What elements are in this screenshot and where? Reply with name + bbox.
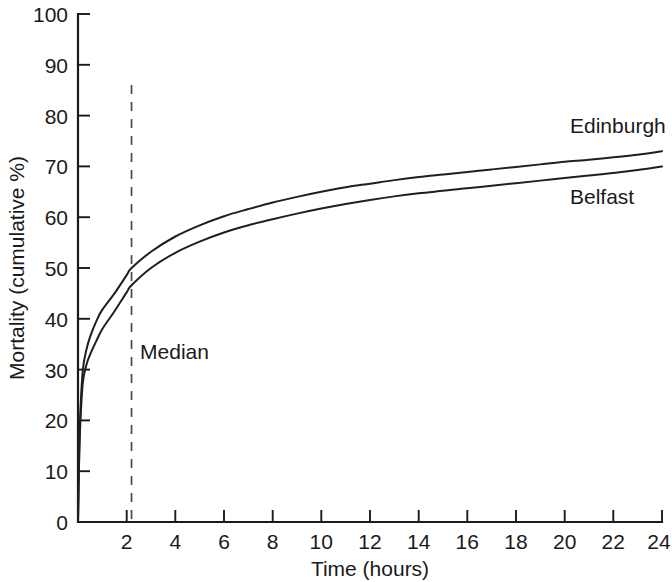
series-label-edinburgh: Edinburgh — [570, 114, 666, 137]
y-tick-label: 0 — [56, 511, 68, 534]
x-axis-tick-labels: 2 4 6 8 10 12 14 16 18 20 22 24 — [121, 530, 671, 553]
x-tick-label: 14 — [407, 530, 431, 553]
chart-plot-area: Mortality (cumulative %) 100 90 80 70 60… — [0, 0, 672, 582]
y-tick-label: 90 — [45, 54, 68, 77]
x-tick-label: 8 — [267, 530, 279, 553]
x-tick-label: 10 — [310, 530, 333, 553]
x-tick-label: 20 — [553, 530, 576, 553]
x-tick-label: 24 — [647, 530, 671, 553]
y-tick-label: 20 — [45, 409, 68, 432]
x-tick-label: 4 — [169, 530, 181, 553]
mortality-cumulative-chart: Mortality (cumulative %) 100 90 80 70 60… — [0, 0, 672, 582]
y-tick-label: 50 — [45, 257, 68, 280]
x-tick-label: 22 — [602, 530, 625, 553]
y-tick-label: 60 — [45, 206, 68, 229]
x-tick-label: 2 — [121, 530, 133, 553]
median-annotation-label: Median — [140, 340, 209, 363]
y-tick-label: 80 — [45, 105, 68, 128]
y-tick-label: 10 — [45, 460, 68, 483]
x-axis-ticks — [127, 510, 662, 522]
y-axis-title: Mortality (cumulative %) — [5, 156, 28, 380]
x-axis-title: Time (hours) — [311, 557, 429, 580]
y-tick-label: 30 — [45, 359, 68, 382]
x-tick-label: 12 — [358, 530, 381, 553]
x-tick-label: 6 — [218, 530, 230, 553]
x-tick-label: 18 — [504, 530, 527, 553]
y-axis-tick-labels: 100 90 80 70 60 50 40 30 20 10 0 — [33, 3, 68, 534]
series-label-belfast: Belfast — [570, 185, 634, 208]
y-tick-label: 40 — [45, 308, 68, 331]
y-tick-label: 70 — [45, 155, 68, 178]
y-tick-label: 100 — [33, 3, 68, 26]
x-tick-label: 16 — [456, 530, 479, 553]
